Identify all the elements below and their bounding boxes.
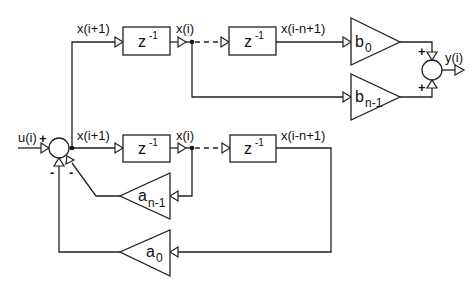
arrow-icon <box>427 52 437 60</box>
gain-an1-base: a <box>138 187 147 204</box>
signal-label-bot-xin1: x(i-n+1) <box>281 128 325 143</box>
arrow-icon <box>115 37 123 47</box>
sign-an1: - <box>69 165 73 180</box>
arrow-icon <box>427 80 437 88</box>
delay-exp: -1 <box>255 137 264 148</box>
a0-feed-line <box>178 148 331 252</box>
gain-bn1-sub: n-1 <box>365 96 383 110</box>
arrow-icon <box>222 143 230 153</box>
gain-a0-base: a <box>146 243 155 260</box>
arrow-icon <box>170 191 178 201</box>
gain-b0-base: b <box>355 33 364 50</box>
signal-label-top-xi1: x(i+1) <box>77 21 110 36</box>
junction-dot <box>70 146 75 151</box>
delay-block-bot-1 <box>123 135 170 162</box>
delay-block-bot-n <box>230 135 276 162</box>
output-summer <box>422 60 442 80</box>
signal-label-bot-xi1: x(i+1) <box>77 128 110 143</box>
delay-label: z <box>244 140 252 157</box>
sign-a0: - <box>50 165 54 180</box>
an1-feedback-line <box>72 163 120 196</box>
delay-label: z <box>138 33 146 50</box>
gain-an1-sub: n-1 <box>148 196 166 210</box>
arrow-icon <box>343 92 351 102</box>
signal-label-input: u(i) <box>18 130 37 145</box>
delay-label: z <box>138 140 146 157</box>
arrow-icon <box>343 37 351 47</box>
input-summer <box>49 138 69 158</box>
arrow-icon <box>170 247 178 257</box>
signal-label-output: y(i) <box>445 50 463 65</box>
arrow-icon <box>66 156 74 164</box>
delay-exp: -1 <box>255 30 264 41</box>
arrow-icon <box>221 37 229 47</box>
block-diagram: x(i+1) z -1 x(i) z -1 x(i-n+1) b 0 b n-1… <box>0 0 476 283</box>
signal-label-top-xin1: x(i-n+1) <box>281 21 325 36</box>
an1-feed-line <box>178 148 192 196</box>
delay-label: z <box>244 33 252 50</box>
arrow-icon <box>178 37 186 47</box>
gain-a0-sub: 0 <box>156 251 163 265</box>
signal-label-top-xi: x(i) <box>176 21 194 36</box>
output-arrow-icon <box>455 65 464 75</box>
delay-block-top-n <box>229 27 276 55</box>
sign-b0: + <box>418 44 426 59</box>
arrow-icon <box>54 158 64 166</box>
gain-bn1-base: b <box>355 88 364 105</box>
arrow-icon <box>115 143 123 153</box>
arrow-icon <box>178 143 186 153</box>
delay-exp: -1 <box>149 137 158 148</box>
sign-bn1: + <box>418 80 426 95</box>
delay-exp: -1 <box>149 30 158 41</box>
delay-block-top-1 <box>123 27 170 55</box>
signal-label-bot-xi: x(i) <box>176 128 194 143</box>
gain-b0-sub: 0 <box>365 41 372 55</box>
